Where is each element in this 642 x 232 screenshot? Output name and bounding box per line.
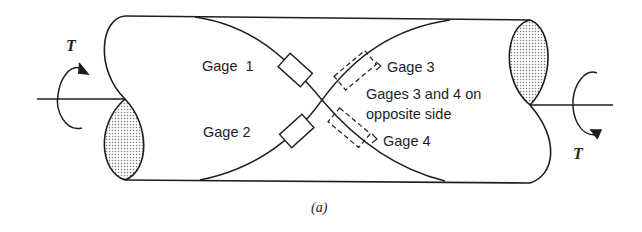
- note-line-2: opposite side: [366, 106, 451, 122]
- gage-3: [334, 51, 376, 91]
- shaft-cylinder: [104, 16, 550, 183]
- gage-1-label: Gage 1: [202, 58, 254, 74]
- note-line-1: Gages 3 and 4 on: [366, 86, 481, 102]
- gage-3-label: Gage 3: [387, 59, 435, 75]
- gage-2: [280, 114, 314, 147]
- gage-2-label: Gage 2: [203, 124, 251, 140]
- torque-right-label: T: [573, 145, 584, 162]
- left-torque-arrow-icon: [57, 63, 88, 128]
- torque-left-label: T: [66, 37, 77, 54]
- figure-caption: (a): [311, 200, 328, 216]
- gage-3-pointer: [376, 62, 381, 70]
- right-end-section: [509, 20, 548, 105]
- gage-4-label: Gage 4: [383, 133, 431, 149]
- shaft-strain-gage-diagram: T T Gage 1 Gage 2 Gage 3 Gages 3 and 4 o…: [0, 0, 642, 232]
- left-end-section: [104, 99, 143, 180]
- gage-4-pointer: [372, 134, 377, 143]
